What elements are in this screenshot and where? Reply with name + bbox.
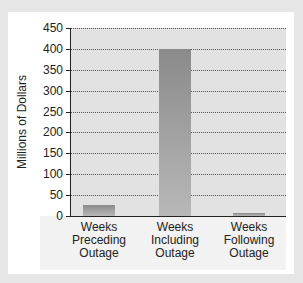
- category-label: WeeksFollowingOutage: [213, 221, 285, 260]
- gridline: [70, 28, 286, 29]
- y-tick-mark: [66, 112, 70, 113]
- y-tick-label: 250: [33, 106, 63, 118]
- bar: [83, 205, 115, 216]
- y-tick-label: 350: [33, 64, 63, 76]
- bar: [233, 213, 265, 216]
- y-tick-mark: [66, 216, 70, 217]
- y-tick-mark: [66, 28, 70, 29]
- y-tick-label: 200: [33, 126, 63, 138]
- category-label-line: Outage: [63, 247, 135, 260]
- category-label: WeeksPrecedingOutage: [63, 221, 135, 260]
- bar: [159, 49, 191, 216]
- y-axis-label: Millions of Dollars: [15, 75, 29, 169]
- y-tick-label: 450: [33, 22, 63, 34]
- y-tick-mark: [66, 153, 70, 154]
- y-tick-label: 0: [33, 210, 63, 222]
- x-axis: [70, 216, 286, 217]
- y-tick-label: 50: [33, 189, 63, 201]
- y-tick-label: 150: [33, 147, 63, 159]
- y-tick-mark: [66, 49, 70, 50]
- y-tick-mark: [66, 91, 70, 92]
- y-tick-mark: [66, 174, 70, 175]
- category-label-line: Outage: [139, 247, 211, 260]
- y-tick-mark: [66, 132, 70, 133]
- y-tick-label: 300: [33, 85, 63, 97]
- y-tick-label: 400: [33, 43, 63, 55]
- category-label-line: Outage: [213, 247, 285, 260]
- y-tick-label: 100: [33, 168, 63, 180]
- y-axis: [70, 28, 71, 217]
- category-label: WeeksIncludingOutage: [139, 221, 211, 260]
- y-tick-mark: [66, 70, 70, 71]
- y-tick-mark: [66, 195, 70, 196]
